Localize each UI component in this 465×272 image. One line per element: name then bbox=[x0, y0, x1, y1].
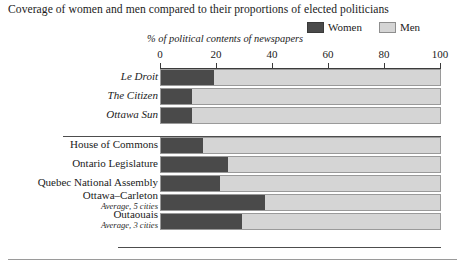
bar-track-men bbox=[160, 88, 441, 105]
legend-label-men: Men bbox=[400, 21, 420, 33]
x-tick-label-60: 60 bbox=[323, 48, 334, 60]
legend-swatch-men-icon bbox=[379, 22, 396, 33]
x-tick-label-20: 20 bbox=[211, 48, 222, 60]
bar-row: OutaouaisAverage, 3 cities bbox=[0, 213, 465, 230]
bar-row: House of Commons bbox=[0, 137, 465, 154]
legend-entry-women: Women bbox=[307, 21, 362, 33]
chart-title: Coverage of women and men compared to th… bbox=[8, 3, 389, 16]
x-axis-tick-labels: 020406080100 bbox=[0, 48, 465, 62]
legend-swatch-women-icon bbox=[307, 22, 324, 33]
bar-label: Ottawa Sun bbox=[8, 109, 158, 121]
bar-row: Ottawa Sun bbox=[0, 107, 465, 124]
footer-rule bbox=[8, 259, 457, 260]
bar-track-men bbox=[160, 137, 441, 154]
bottom-group-rule bbox=[118, 247, 441, 248]
bar-segment-women bbox=[161, 138, 203, 153]
bar-label: Le Droit bbox=[8, 71, 158, 83]
bar-segment-women bbox=[161, 89, 192, 104]
bar-track-men bbox=[160, 213, 441, 230]
bar-segment-women bbox=[161, 108, 192, 123]
group-divider-rule bbox=[63, 136, 441, 137]
bar-segment-women bbox=[161, 195, 265, 210]
bar-sublabel: Average, 3 cities bbox=[8, 221, 158, 230]
bar-label: The Citizen bbox=[8, 90, 158, 102]
bar-row: The Citizen bbox=[0, 88, 465, 105]
bar-segment-women bbox=[161, 176, 220, 191]
bar-track-men bbox=[160, 175, 441, 192]
x-tick-label-0: 0 bbox=[157, 48, 163, 60]
bar-label: OutaouaisAverage, 3 cities bbox=[8, 209, 158, 230]
legend-entry-men: Men bbox=[379, 21, 420, 33]
bar-rows: Le DroitThe CitizenOttawa SunHouse of Co… bbox=[0, 69, 465, 232]
bar-segment-women bbox=[161, 70, 214, 85]
bar-segment-women bbox=[161, 214, 242, 229]
x-tick-label-80: 80 bbox=[379, 48, 390, 60]
axis-caption: % of political contents of newspapers bbox=[147, 33, 303, 44]
bar-track-men bbox=[160, 156, 441, 173]
chart-figure: Coverage of women and men compared to th… bbox=[0, 0, 465, 272]
bar-label: Ontario Legislature bbox=[8, 158, 158, 170]
bar-track-men bbox=[160, 194, 441, 211]
x-tick-label-40: 40 bbox=[267, 48, 278, 60]
legend-label-women: Women bbox=[328, 21, 362, 33]
bar-track-men bbox=[160, 107, 441, 124]
bar-label: House of Commons bbox=[8, 139, 158, 151]
x-tick-label-100: 100 bbox=[432, 48, 449, 60]
bar-row: Le Droit bbox=[0, 69, 465, 86]
bar-label: Quebec National Assembly bbox=[8, 177, 158, 189]
bar-segment-women bbox=[161, 157, 228, 172]
chart-legend: Women Men bbox=[307, 21, 420, 33]
bar-track-men bbox=[160, 69, 441, 86]
bar-row: Ontario Legislature bbox=[0, 156, 465, 173]
